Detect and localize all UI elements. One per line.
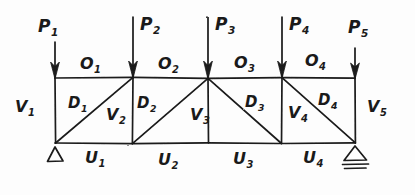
load-label-p1: P1 (38, 18, 58, 38)
vertical-member-1 (55, 78, 56, 143)
load-label-p2: P2 (140, 16, 160, 36)
top-chord-line (55, 77, 355, 78)
bottom-chord-label-u4: U4 (303, 150, 323, 169)
load-label-p5: P5 (348, 19, 368, 39)
load-label-p3: P3 (215, 16, 235, 36)
diagonal-label-d1: D1 (68, 96, 87, 113)
vertical-label-v4: V4 (288, 105, 308, 124)
bottom-chord-line (55, 143, 355, 144)
diagonal-label-d2: D2 (137, 96, 156, 113)
top-chord-label-o1: O1 (80, 56, 101, 75)
vertical-label-v2: V2 (106, 107, 126, 126)
vertical-label-v1: V1 (15, 99, 35, 118)
bottom-chord-label-u1: U1 (85, 150, 105, 169)
vertical-member-4 (282, 78, 283, 144)
vertical-member-2 (132, 77, 133, 143)
diagonal-label-d3: D3 (245, 95, 264, 112)
diagonal-label-d4: D4 (318, 93, 337, 110)
top-chord-label-o4: O4 (305, 53, 326, 72)
roller-support-symbol (343, 146, 369, 169)
top-chord-label-o3: O3 (234, 55, 255, 74)
load-label-p4: P4 (289, 16, 309, 36)
top-chord-label-o2: O2 (158, 56, 179, 75)
bottom-chord-label-u3: U3 (233, 151, 253, 170)
truss-diagram: P1 P2 P3 P4 P5 O1 O2 O3 O4 U1 U2 U3 U4 V… (0, 0, 415, 195)
bottom-chord-label-u2: U2 (158, 152, 178, 171)
pin-support-symbol (48, 147, 64, 162)
vertical-label-v3: V3 (190, 107, 210, 126)
vertical-label-v5: V5 (367, 99, 387, 118)
